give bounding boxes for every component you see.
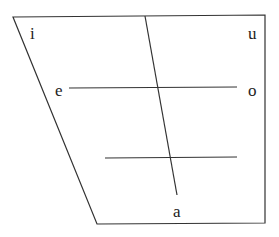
- vowel-label-i: i: [30, 25, 35, 42]
- vowel-label-a: a: [173, 203, 181, 220]
- vowel-trapezoid: [0, 0, 279, 237]
- vowel-label-o: o: [248, 82, 257, 99]
- central-vertical-line: [145, 16, 177, 195]
- vowel-label-u: u: [248, 25, 257, 42]
- mid-low-line: [105, 157, 237, 158]
- trapezoid-outline: [13, 15, 265, 224]
- vowel-label-e: e: [55, 82, 63, 99]
- mid-high-line: [69, 87, 237, 88]
